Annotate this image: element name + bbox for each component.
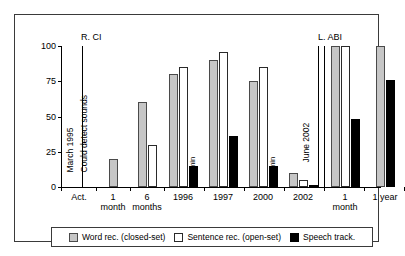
- legend: Word rec. (closed-set) Sentence rec. (op…: [51, 227, 373, 247]
- bar-track-2002: [309, 185, 318, 187]
- bar-group-1-month-abi: 29 w/min: [327, 46, 363, 187]
- bar-sentence-2000: [259, 67, 268, 187]
- x-tick-mark-1: [96, 187, 97, 191]
- x-axis-line: [61, 187, 381, 188]
- bar-group-6-months: [131, 46, 163, 187]
- x-label-6-months: 6 months: [131, 192, 163, 212]
- bar-sentence-6-months: [148, 145, 157, 187]
- x-tick-mark-2: [130, 187, 131, 191]
- x-tick-mark-6: [284, 187, 285, 191]
- bar-group-1997: 20 w/min: [205, 46, 241, 187]
- rate-label-1996: 7 w/min: [189, 156, 197, 184]
- bar-word-1-year: [376, 46, 385, 187]
- y-tick-mark-25: [58, 152, 61, 153]
- section-title-r-ci: R. CI: [81, 33, 102, 42]
- bar-sentence-1996: [179, 67, 188, 187]
- bar-word-2000: [249, 81, 258, 187]
- bar-track-1996: 7 w/min: [189, 166, 198, 187]
- legend-label-word-rec: Word rec. (closed-set): [82, 232, 165, 242]
- bar-track-2000: 7 w/min: [269, 166, 278, 187]
- bar-track-1-month-abi: 29 w/min: [351, 119, 360, 187]
- rate-label-1-year: 47 w/m: [386, 158, 394, 184]
- legend-item-sentence-rec: Sentence rec. (open-set): [174, 232, 281, 242]
- figure-frame: 100 75 50 25 0 March 1995 Could detect s…: [14, 14, 379, 242]
- x-label-1-year: 1 year: [367, 192, 403, 202]
- plot-area: 100 75 50 25 0 March 1995 Could detect s…: [61, 46, 381, 187]
- legend-label-sentence-rec: Sentence rec. (open-set): [187, 232, 281, 242]
- legend-item-speech-track: Speech track.: [290, 232, 355, 242]
- rate-label-1997: 20 w/min: [229, 152, 237, 184]
- x-label-2002: 2002: [285, 192, 321, 202]
- x-tick-mark-8: [364, 187, 365, 191]
- bar-word-6-months: [138, 102, 147, 187]
- bar-sentence-2002: [299, 180, 308, 187]
- x-tick-mark-0: [61, 187, 62, 191]
- x-tick-mark-5: [244, 187, 245, 191]
- bar-group-1996: 7 w/min: [165, 46, 201, 187]
- legend-label-speech-track: Speech track.: [303, 232, 355, 242]
- x-tick-mark-4: [204, 187, 205, 191]
- x-label-1997: 1997: [205, 192, 241, 202]
- x-label-1-month-abi: 1 month: [327, 192, 363, 212]
- rate-label-1-month-abi: 29 w/min: [351, 152, 359, 184]
- x-label-act: Act.: [63, 192, 95, 202]
- bar-word-1996: [169, 74, 178, 187]
- section-divider-abi-right: [324, 46, 325, 187]
- bar-group-act: [63, 46, 95, 187]
- y-tick-mark-100: [58, 46, 61, 47]
- y-axis-line: [61, 46, 62, 187]
- legend-swatch-speech-track: [290, 233, 299, 242]
- section-title-l-abi: L. ABI: [318, 33, 342, 42]
- y-tick-mark-75: [58, 81, 61, 82]
- x-tick-mark-3: [164, 187, 165, 191]
- y-tick-mark-50: [58, 117, 61, 118]
- x-label-2000: 2000: [245, 192, 281, 202]
- bar-track-1-year: 47 w/m: [386, 80, 395, 187]
- bar-track-1997: 20 w/min: [229, 136, 238, 187]
- bar-word-1997: [209, 60, 218, 187]
- bar-group-1-month-ci: [97, 46, 129, 187]
- bar-word-2002: [289, 173, 298, 187]
- legend-item-word-rec: Word rec. (closed-set): [69, 232, 165, 242]
- x-label-1-month-ci: 1 month: [97, 192, 129, 212]
- bar-group-1-year: 47 w/m: [367, 46, 403, 187]
- x-label-1996: 1996: [165, 192, 201, 202]
- bar-word-1-month-abi: [331, 46, 340, 187]
- bar-group-2000: 7 w/min: [245, 46, 281, 187]
- rate-label-2000: 7 w/min: [269, 156, 277, 184]
- bar-sentence-1997: [219, 52, 228, 187]
- legend-swatch-word-rec: [69, 233, 78, 242]
- bar-sentence-1-month-abi: [341, 46, 350, 187]
- x-tick-mark-7: [324, 187, 325, 191]
- bar-group-2002: [285, 46, 321, 187]
- legend-swatch-sentence-rec: [174, 233, 183, 242]
- bar-word-1-month-ci: [109, 159, 118, 187]
